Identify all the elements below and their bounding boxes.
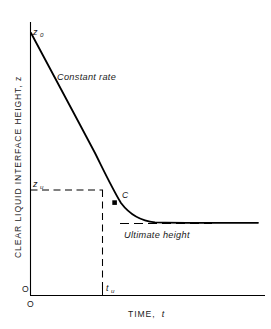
- x-axis-title-symbol: t: [162, 309, 165, 319]
- settling-curve: [31, 33, 258, 223]
- label-zu: z u: [32, 179, 44, 190]
- origin-label-x: O: [27, 299, 34, 309]
- annotation-constant-rate: Constant rate: [57, 72, 116, 82]
- label-z0: z 0: [32, 27, 44, 38]
- label-tu-symbol: t: [106, 283, 109, 293]
- origin-label-y: O: [22, 284, 29, 294]
- label-zu-symbol: z: [32, 179, 38, 189]
- label-z0-symbol: z: [32, 27, 38, 37]
- y-axis-title: CLEAR LIQUID INTERFACE HEIGHT, z: [13, 76, 23, 258]
- critical-point-marker: [112, 200, 117, 205]
- label-zu-subscript: u: [40, 183, 44, 190]
- label-tu-subscript: u: [111, 287, 115, 294]
- annotation-ultimate-height: Ultimate height: [124, 230, 190, 240]
- label-z0-subscript: 0: [40, 31, 44, 38]
- chart-canvas: CLEAR LIQUID INTERFACE HEIGHT, z TIME, t…: [0, 0, 271, 329]
- x-axis-title-main: TIME,: [128, 309, 155, 319]
- label-point-c: C: [122, 190, 129, 200]
- label-tu: t u: [106, 283, 115, 294]
- x-axis-title: TIME, t: [128, 309, 165, 319]
- sedimentation-curve-figure: CLEAR LIQUID INTERFACE HEIGHT, z TIME, t…: [0, 0, 271, 329]
